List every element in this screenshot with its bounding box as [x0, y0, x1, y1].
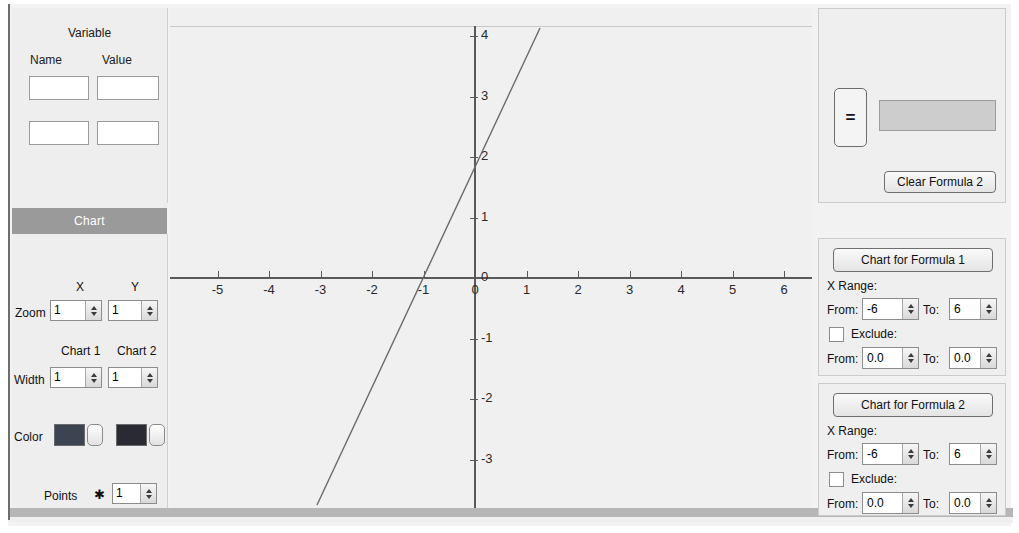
exclude-to-value-2: 0.0: [950, 493, 980, 513]
formula-box: = Clear Formula 2: [818, 8, 1006, 203]
exclude-from-value-1: 0.0: [863, 348, 902, 368]
range-from-value-2: -6: [863, 444, 902, 464]
chart-for-formula-2-button[interactable]: Chart for Formula 2: [833, 393, 993, 417]
chart2-header: Chart 2: [117, 344, 156, 358]
range-from-label-1: From:: [827, 303, 858, 317]
range-to-stepper-1[interactable]: 6: [949, 298, 997, 320]
color-label: Color: [14, 430, 43, 444]
variable-name-input-1[interactable]: [29, 76, 89, 100]
range-to-value-1: 6: [950, 299, 980, 319]
range-to-stepper-2[interactable]: 6: [949, 443, 997, 465]
chart1-header: Chart 1: [61, 344, 100, 358]
range-from-stepper-1[interactable]: -6: [862, 298, 919, 320]
exclude-to-stepper-buttons-2[interactable]: [980, 493, 996, 513]
zoom-x-value: 1: [51, 301, 85, 320]
zoom-label: Zoom: [15, 306, 46, 320]
exclude-checkbox-1[interactable]: [829, 327, 844, 342]
exclude-from-stepper-buttons-1[interactable]: [902, 348, 918, 368]
variable-name-header: Name: [30, 53, 62, 67]
width-label: Width: [14, 373, 45, 387]
range-from-stepper-buttons-2[interactable]: [902, 444, 918, 464]
color-dropdown-chart2-icon[interactable]: [149, 424, 165, 446]
chart-for-formula-1-button[interactable]: Chart for Formula 1: [833, 248, 993, 272]
width-chart1-stepper[interactable]: 1: [50, 367, 102, 388]
variable-value-input-2[interactable]: [97, 121, 159, 145]
zoom-x-stepper-buttons[interactable]: [85, 301, 101, 320]
color-dropdown-chart1-icon[interactable]: [87, 424, 103, 446]
exclude-from-value-2: 0.0: [863, 493, 902, 513]
range-to-stepper-buttons-2[interactable]: [980, 444, 996, 464]
exclude-checkbox-2[interactable]: [829, 472, 844, 487]
exclude-label-1: Exclude:: [851, 327, 897, 341]
variable-group: Variable Name Value: [12, 8, 168, 203]
variable-name-input-2[interactable]: [29, 121, 89, 145]
left-panel: Variable Name Value Chart X Y Zoom 1 1 C…: [12, 8, 167, 508]
color-picker-chart2[interactable]: [116, 424, 165, 446]
exclude-to-label-1: To:: [923, 352, 939, 366]
range-to-label-1: To:: [923, 303, 939, 317]
chart-section-header: Chart: [12, 208, 167, 234]
points-marker-icon: ✱: [94, 487, 105, 502]
exclude-from-label-2: From:: [827, 497, 858, 511]
exclude-from-stepper-2[interactable]: 0.0: [862, 492, 919, 514]
color-swatch-chart2[interactable]: [116, 424, 147, 446]
zoom-x-header: X: [76, 280, 84, 294]
points-stepper-buttons[interactable]: [140, 484, 156, 503]
color-picker-chart1[interactable]: [54, 424, 103, 446]
exclude-to-value-1: 0.0: [950, 348, 980, 368]
x-range-label-1: X Range:: [827, 279, 877, 293]
exclude-to-label-2: To:: [923, 497, 939, 511]
points-value: 1: [113, 484, 140, 503]
variable-value-input-1[interactable]: [97, 76, 159, 100]
range-from-stepper-buttons-1[interactable]: [902, 299, 918, 319]
application-window: Variable Name Value Chart X Y Zoom 1 1 C…: [0, 0, 1019, 533]
exclude-label-2: Exclude:: [851, 472, 897, 486]
zoom-y-stepper-buttons[interactable]: [141, 301, 157, 320]
series-line-formula1: [317, 28, 540, 505]
right-panel: = Clear Formula 2 Chart for Formula 1 X …: [818, 8, 1010, 508]
range-from-value-1: -6: [863, 299, 902, 319]
range-from-stepper-2[interactable]: -6: [862, 443, 919, 465]
plot-series-layer: [170, 8, 812, 508]
color-swatch-chart1[interactable]: [54, 424, 85, 446]
zoom-y-stepper[interactable]: 1: [108, 300, 158, 321]
range-panel-formula1: Chart for Formula 1 X Range: From: -6 To…: [818, 238, 1006, 376]
width-chart1-stepper-buttons[interactable]: [85, 368, 101, 387]
zoom-y-value: 1: [109, 301, 141, 320]
exclude-to-stepper-1[interactable]: 0.0: [949, 347, 997, 369]
width-chart1-value: 1: [51, 368, 85, 387]
range-from-label-2: From:: [827, 448, 858, 462]
range-to-stepper-buttons-1[interactable]: [980, 299, 996, 319]
exclude-from-stepper-1[interactable]: 0.0: [862, 347, 919, 369]
range-panel-formula2: Chart for Formula 2 X Range: From: -6 To…: [818, 383, 1006, 516]
chart-canvas[interactable]: -5-4-3-2-1012345643210-1-2-3-4: [170, 8, 812, 508]
chart-settings-group: X Y Zoom 1 1 Chart 1 Chart 2 Width 1 1: [12, 234, 168, 508]
range-to-value-2: 6: [950, 444, 980, 464]
width-chart2-value: 1: [109, 368, 141, 387]
formula-input[interactable]: [879, 100, 996, 131]
clear-formula-2-button[interactable]: Clear Formula 2: [884, 171, 996, 193]
exclude-from-label-1: From:: [827, 352, 858, 366]
exclude-from-stepper-buttons-2[interactable]: [902, 493, 918, 513]
zoom-x-stepper[interactable]: 1: [50, 300, 102, 321]
variable-value-header: Value: [102, 53, 132, 67]
window-bottom-strip: [10, 517, 1013, 523]
zoom-y-header: Y: [131, 280, 139, 294]
x-range-label-2: X Range:: [827, 424, 877, 438]
points-label: Points: [44, 489, 77, 503]
width-chart2-stepper-buttons[interactable]: [141, 368, 157, 387]
range-to-label-2: To:: [923, 448, 939, 462]
variable-group-title: Variable: [12, 26, 167, 40]
exclude-to-stepper-buttons-1[interactable]: [980, 348, 996, 368]
equals-button[interactable]: =: [834, 88, 867, 147]
points-stepper[interactable]: 1: [112, 483, 157, 504]
exclude-to-stepper-2[interactable]: 0.0: [949, 492, 997, 514]
width-chart2-stepper[interactable]: 1: [108, 367, 158, 388]
window-left-edge: [8, 4, 10, 520]
